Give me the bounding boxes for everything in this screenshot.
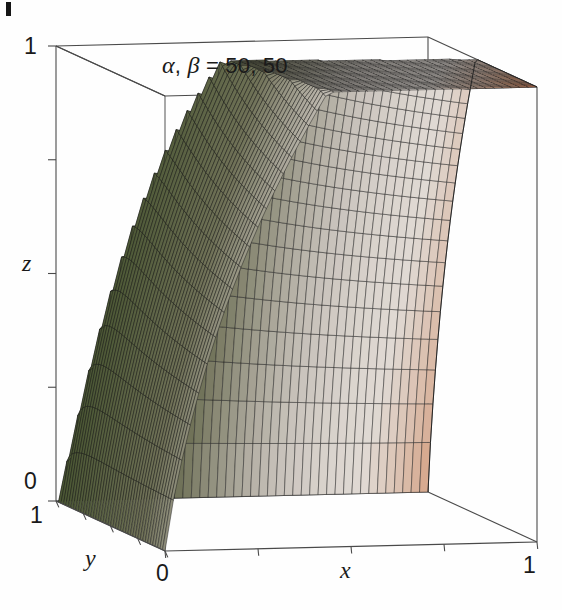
z-axis-label: z <box>22 250 31 277</box>
y-axis-tick-max: 1 <box>30 502 43 529</box>
y-axis-label: y <box>85 545 96 572</box>
plot-title: α, β = 50, 50 <box>162 52 288 79</box>
z-axis-tick-max: 1 <box>24 33 37 60</box>
surface-mesh <box>56 59 537 551</box>
x-axis-tick-max: 1 <box>523 552 536 579</box>
surface-plot-canvas <box>0 0 562 610</box>
x-axis-tick-min: 0 <box>156 560 169 587</box>
z-axis-tick-min: 0 <box>24 468 37 495</box>
x-axis-label: x <box>340 557 351 584</box>
figure-page: α, β = 50, 50 1 0 z 1 y 0 1 x <box>0 0 562 610</box>
